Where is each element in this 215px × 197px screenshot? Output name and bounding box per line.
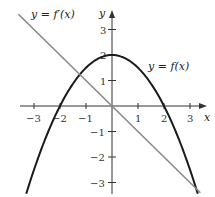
y-tick-label: −2 <box>90 152 105 163</box>
x-tick-label: 1 <box>135 113 141 124</box>
x-tick-label: −1 <box>78 113 93 124</box>
y-axis-arrow-icon <box>109 10 115 18</box>
y-axis <box>109 10 115 194</box>
x-axis-arrow-icon <box>199 103 207 109</box>
y-axis-label: y <box>98 7 106 20</box>
x-tick-label: −3 <box>26 113 41 124</box>
fprime-line <box>18 14 200 193</box>
y-tick-label: −3 <box>90 178 105 189</box>
x-axis-label: x <box>204 111 211 124</box>
curves <box>18 14 200 194</box>
f-label: y = f(x) <box>147 60 189 73</box>
x-tick-label: 2 <box>161 113 167 124</box>
y-tick-label: 1 <box>100 76 106 87</box>
fprime-label: y = f′(x) <box>30 8 75 21</box>
graph: −3−2−1123 321−1−2−3 x y y = f′(x) y = f(… <box>0 0 215 197</box>
x-tick-label: 3 <box>187 113 193 124</box>
y-tick-label: 3 <box>100 25 106 36</box>
y-tick-label: −1 <box>90 127 105 138</box>
